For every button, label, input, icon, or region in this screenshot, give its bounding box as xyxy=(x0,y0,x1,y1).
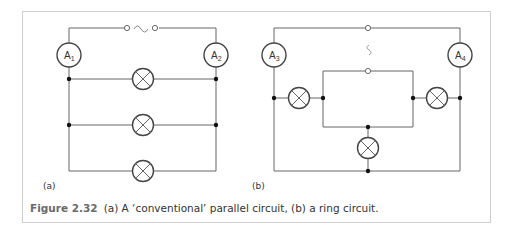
lamp-icon xyxy=(427,88,448,109)
lamp-icon xyxy=(133,69,154,90)
figure-caption: Figure 2.32(a) A ‘conventional’ parallel… xyxy=(30,202,379,214)
lamp-icon xyxy=(133,161,154,182)
caption-text: (a) A ‘conventional’ parallel circuit, (… xyxy=(104,202,379,214)
ammeter-a4: A4 xyxy=(448,43,472,67)
ammeter-a2: A2 xyxy=(204,43,228,67)
diagram-label-a: (a) xyxy=(43,181,56,191)
lamp-icon xyxy=(289,88,310,109)
ac-source-a xyxy=(124,25,157,32)
circuit-a xyxy=(69,28,216,171)
ac-source-b xyxy=(365,25,371,73)
figure-number: Figure 2.32 xyxy=(30,202,98,214)
ammeter-a3: A3 xyxy=(262,43,286,67)
diagram-label-b: (b) xyxy=(252,181,265,191)
lamp-icon xyxy=(358,138,379,159)
lamp-icon xyxy=(133,115,154,136)
ammeter-a1: A1 xyxy=(57,43,81,67)
circuit-diagrams: A1 A2 A3 A4 xyxy=(0,0,514,233)
